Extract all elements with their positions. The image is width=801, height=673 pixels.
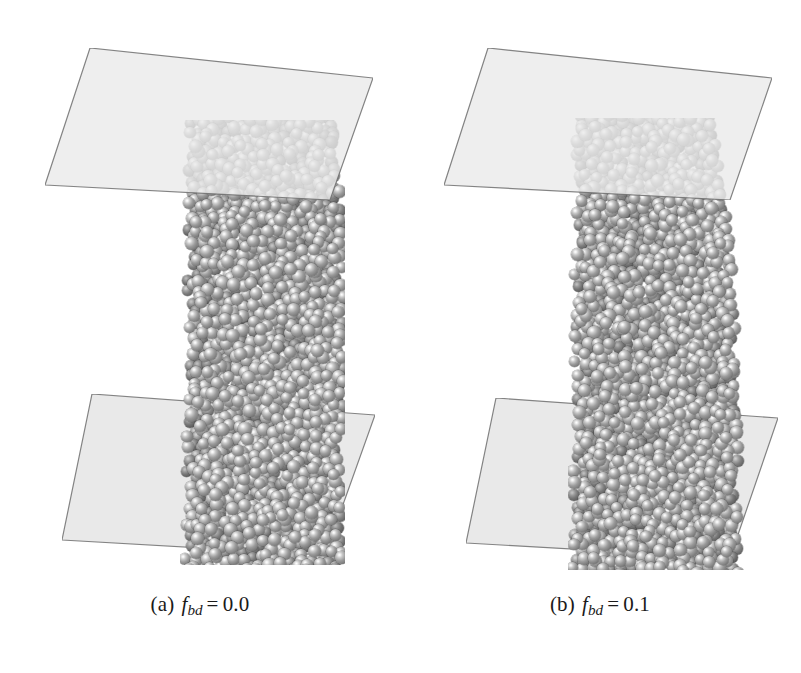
particle — [264, 308, 276, 320]
particle — [569, 356, 580, 367]
particle — [269, 266, 282, 279]
particle — [284, 263, 297, 276]
particle — [615, 555, 626, 566]
particle — [677, 206, 688, 217]
particle — [202, 366, 213, 377]
caption-label-a: (a) — [151, 592, 175, 616]
particle — [184, 322, 195, 333]
particle — [274, 213, 287, 226]
particle — [597, 563, 609, 570]
particle — [619, 474, 631, 486]
particle — [221, 437, 233, 449]
particle — [268, 353, 280, 365]
particle — [334, 387, 346, 399]
particle — [221, 255, 234, 268]
particle — [618, 321, 631, 334]
particle — [216, 423, 229, 436]
particle — [730, 426, 742, 438]
particle — [243, 527, 254, 538]
caption-equals-b: = — [607, 592, 619, 616]
particle — [196, 503, 207, 514]
particle — [314, 558, 326, 565]
particle — [603, 403, 615, 415]
particle — [686, 362, 698, 374]
caption-value-a: 0.0 — [223, 592, 250, 616]
particle — [652, 280, 663, 291]
panel-b: (b)fbd=0.1 — [400, 0, 800, 600]
particle — [701, 220, 714, 233]
particle — [206, 387, 219, 400]
particle — [721, 452, 733, 464]
particle — [705, 202, 718, 215]
particle — [311, 344, 324, 357]
particle — [587, 397, 600, 410]
particle — [325, 514, 336, 525]
particle — [320, 445, 332, 457]
particle — [272, 443, 284, 455]
particle — [677, 376, 690, 389]
particle — [674, 544, 687, 557]
particle — [589, 209, 601, 221]
particle — [618, 271, 630, 283]
particle — [649, 385, 661, 397]
particle — [607, 478, 619, 490]
particle — [309, 394, 321, 406]
particle — [310, 416, 322, 428]
particle — [268, 533, 281, 546]
particle — [335, 486, 345, 497]
particle — [195, 297, 206, 308]
particle — [242, 371, 255, 384]
particle — [690, 567, 703, 570]
particle — [684, 486, 697, 499]
particle — [631, 417, 644, 430]
particle — [232, 445, 243, 456]
particle — [250, 467, 261, 478]
particle — [226, 502, 239, 515]
particle — [205, 523, 216, 534]
particle — [653, 453, 665, 465]
particle — [639, 305, 652, 318]
particle — [708, 331, 720, 343]
particle — [663, 259, 675, 271]
particle — [250, 457, 261, 468]
particle — [732, 567, 744, 570]
particle — [332, 306, 344, 318]
particle — [710, 502, 723, 515]
particle — [191, 339, 203, 351]
particle — [219, 390, 231, 402]
particle — [653, 544, 666, 557]
particle — [713, 518, 726, 531]
particle — [661, 512, 672, 523]
particle — [628, 438, 639, 449]
particle — [674, 233, 687, 246]
particle — [677, 333, 689, 345]
particle — [335, 551, 345, 563]
top-plate-b — [444, 48, 772, 200]
particle — [322, 326, 333, 337]
particle — [208, 435, 220, 447]
particle — [185, 408, 198, 421]
particle — [677, 565, 689, 570]
particle — [722, 484, 733, 495]
particle — [191, 532, 204, 545]
particle — [576, 521, 588, 533]
particle — [330, 529, 342, 541]
particle — [618, 206, 630, 218]
particle — [685, 434, 697, 446]
particle — [568, 562, 578, 570]
particle — [247, 259, 259, 271]
particle — [234, 455, 246, 467]
particle — [247, 235, 259, 247]
particle — [328, 469, 339, 480]
particle — [676, 264, 689, 277]
particle — [619, 406, 631, 418]
particle — [298, 429, 309, 440]
particle — [227, 278, 239, 290]
particle — [226, 218, 238, 230]
particle — [675, 300, 687, 312]
caption-value-b: 0.1 — [623, 592, 650, 616]
caption-panel-a: (a)fbd=0.0 — [0, 592, 400, 619]
particle — [699, 356, 712, 369]
particle — [315, 213, 327, 225]
particle — [630, 514, 641, 525]
